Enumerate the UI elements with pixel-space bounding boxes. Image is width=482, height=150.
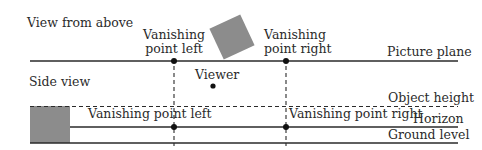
viewer-dot [210, 83, 215, 88]
side-view-title: Side view [29, 75, 90, 89]
vp-left-top-label-line2: point left [140, 42, 208, 56]
object-height-label: Object height [388, 91, 474, 105]
horizon-label: Horizon [413, 112, 464, 126]
vp-right-top-dot [283, 58, 289, 64]
ground-level-label: Ground level [388, 128, 469, 142]
vp-left-horizon-dot [171, 124, 177, 130]
vp-right-top-label-line2: point right [264, 42, 332, 56]
picture-plane-label: Picture plane [387, 45, 472, 59]
top-view-title: View from above [27, 16, 133, 30]
viewer-label: Viewer [195, 68, 239, 82]
vp-right-top-label-line1: Vanishing [264, 28, 326, 42]
vp-left-top-label-line1: Vanishing [140, 28, 208, 42]
vp-left-side-label: Vanishing point left [88, 107, 212, 121]
vp-left-top-dot [171, 58, 177, 64]
vp-right-horizon-dot [283, 124, 289, 130]
object-side-view [30, 106, 70, 143]
object-top-view [209, 14, 254, 59]
perspective-diagram: View from above Vanishing point left Van… [0, 0, 482, 150]
vp-right-side-label: Vanishing point right [289, 107, 423, 121]
